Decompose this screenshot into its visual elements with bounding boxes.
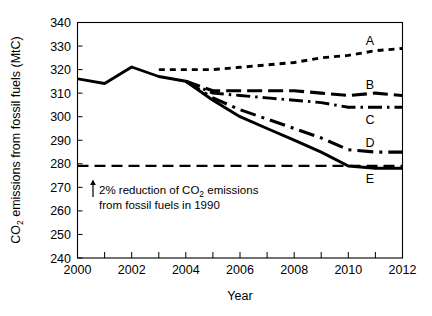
- annotation-line-1: 2% reduction of CO2 emissions: [99, 184, 259, 199]
- x-tick-label: 2012: [389, 263, 417, 277]
- y-tick-label: 250: [50, 228, 71, 242]
- y-axis-title-suffix: emissions from fossil fuels (MtC): [9, 36, 23, 220]
- svg-text:CO2 emissions from fossil fuel: CO2 emissions from fossil fuels (MtC): [9, 36, 25, 244]
- x-tick-marks: [78, 252, 403, 258]
- series-historical: [78, 67, 186, 84]
- annotation-line1-suffix: emissions: [204, 184, 259, 196]
- y-tick-marks: [78, 23, 83, 259]
- y-tick-label: 290: [50, 134, 71, 148]
- plot-frame: [78, 23, 403, 259]
- x-tick-label: 2008: [280, 263, 308, 277]
- y-tick-label: 300: [50, 110, 71, 124]
- x-tick-label: 2004: [172, 263, 200, 277]
- x-tick-label: 2010: [334, 263, 362, 277]
- y-tick-label: 330: [50, 40, 71, 54]
- figure-container: 340 330 320 310 300 290 280 270 260 250 …: [0, 0, 432, 316]
- y-axis-tick-labels: 340 330 320 310 300 290 280 270 260 250 …: [50, 16, 71, 266]
- annotation-line1-prefix: 2% reduction of CO: [99, 184, 199, 196]
- up-arrow-icon: [90, 180, 96, 198]
- x-tick-label: 2000: [64, 263, 92, 277]
- y-tick-label: 270: [50, 181, 71, 195]
- y-tick-label: 260: [50, 204, 71, 218]
- series-label-B: B: [366, 78, 374, 92]
- x-tick-label: 2006: [226, 263, 254, 277]
- x-axis-title: Year: [227, 289, 252, 303]
- emissions-line-chart: 340 330 320 310 300 290 280 270 260 250 …: [0, 0, 432, 316]
- y-tick-label: 340: [50, 16, 71, 30]
- y-axis-title: CO2 emissions from fossil fuels (MtC): [9, 36, 25, 244]
- y-axis-title-prefix: CO: [9, 225, 23, 244]
- series-A-line: [159, 48, 403, 69]
- y-tick-label: 310: [50, 87, 71, 101]
- series-label-E: E: [366, 172, 374, 186]
- series-label-C: C: [365, 113, 374, 127]
- series-label-A: A: [366, 34, 375, 48]
- y-tick-label: 280: [50, 157, 71, 171]
- y-tick-label: 320: [50, 63, 71, 77]
- x-axis-tick-labels: 2000 2002 2004 2006 2008 2010 2012: [64, 263, 417, 277]
- series-label-D: D: [365, 136, 374, 150]
- x-tick-label: 2002: [118, 263, 146, 277]
- annotation-line-2: from fossil fuels in 1990: [99, 199, 220, 211]
